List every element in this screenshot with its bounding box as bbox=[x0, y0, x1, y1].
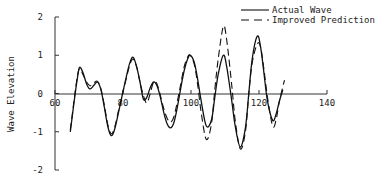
y-axis-title: Wave Elevation bbox=[6, 56, 16, 132]
x-axis-ticks: 6080100120140 bbox=[50, 90, 336, 108]
y-tick-label: 1 bbox=[38, 50, 43, 60]
legend-label-actual: Actual Wave bbox=[272, 5, 332, 15]
improved-prediction-line bbox=[70, 26, 284, 149]
wave-elevation-chart: 210-1-2 6080100120140 Wave Elevation Act… bbox=[0, 0, 383, 184]
x-tick-label: 120 bbox=[251, 98, 267, 108]
legend: Actual Wave Improved Prediction bbox=[241, 5, 375, 25]
x-tick-label: 100 bbox=[183, 98, 199, 108]
y-tick-label: -1 bbox=[32, 127, 43, 137]
y-tick-label: 2 bbox=[38, 12, 43, 22]
legend-label-prediction: Improved Prediction bbox=[272, 15, 375, 25]
y-tick-label: 0 bbox=[38, 89, 43, 99]
actual-wave-line bbox=[70, 36, 282, 147]
y-tick-label: -2 bbox=[32, 165, 43, 175]
x-tick-label: 140 bbox=[319, 98, 335, 108]
x-tick-label: 60 bbox=[50, 98, 61, 108]
